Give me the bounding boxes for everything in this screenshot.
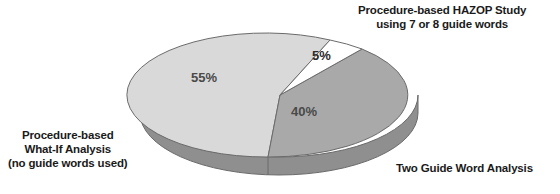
slice-label-hazop-line1: Procedure-based HAZOP Study (358, 3, 526, 17)
slice-value-hazop: 5% (312, 48, 331, 63)
slice-label-hazop: Procedure-based HAZOP Study using 7 or 8… (358, 3, 526, 31)
slice-label-what-if-line3: (no guide words used) (8, 156, 128, 170)
slice-label-two-guide-word-line1: Two Guide Word Analysis (396, 161, 533, 175)
slice-label-hazop-line2: using 7 or 8 guide words (358, 17, 526, 31)
pie-top-face (127, 33, 408, 157)
slice-label-two-guide-word: Two Guide Word Analysis (396, 161, 533, 175)
slice-value-what-if: 55% (191, 70, 217, 85)
pie-chart-figure: Procedure-based HAZOP Study using 7 or 8… (0, 0, 560, 194)
slice-label-what-if-line1: Procedure-based (8, 128, 128, 142)
slice-label-what-if: Procedure-based What-If Analysis (no gui… (8, 128, 128, 170)
slice-value-two-guide-word: 40% (291, 104, 317, 119)
slice-label-what-if-line2: What-If Analysis (8, 142, 128, 156)
